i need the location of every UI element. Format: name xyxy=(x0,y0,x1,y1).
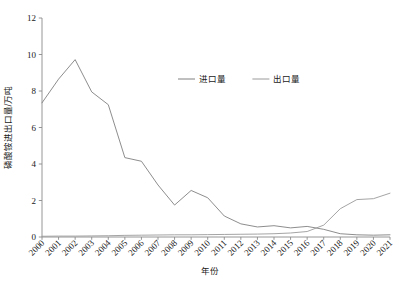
y-axis-tick-label: 12 xyxy=(27,13,36,23)
y-axis: 024681012 xyxy=(27,13,42,242)
legend-label-2[interactable]: 出口量 xyxy=(273,74,300,84)
x-axis-tick-label: 2008 xyxy=(159,237,179,257)
legend-label-1[interactable]: 进口量 xyxy=(199,74,226,84)
x-axis-tick-label: 2000 xyxy=(27,237,47,257)
x-axis-tick-label: 2015 xyxy=(275,237,295,257)
x-axis-tick-label: 2010 xyxy=(192,237,212,257)
x-axis-tick-label: 2006 xyxy=(126,237,146,257)
x-axis-tick-label: 2001 xyxy=(43,238,63,258)
x-axis-tick-label: 2019 xyxy=(341,237,361,257)
x-axis-tick-label: 2007 xyxy=(143,237,163,257)
x-axis: 2000200120022003200420052006200720082009… xyxy=(27,237,395,258)
x-axis-tick-label: 2020 xyxy=(358,237,378,257)
x-axis-tick-label: 2003 xyxy=(76,237,96,257)
x-axis-tick-label: 2021 xyxy=(375,238,395,258)
x-axis-tick-label: 2016 xyxy=(292,237,312,257)
x-axis-tick-label: 2009 xyxy=(176,237,196,257)
x-axis-title: 年份 xyxy=(201,266,219,276)
x-axis-tick-label: 2005 xyxy=(109,237,129,257)
data-series-group xyxy=(42,60,390,237)
y-axis-tick-label: 8 xyxy=(32,86,37,96)
x-axis-tick-label: 2011 xyxy=(209,238,229,258)
chart-legend: 进口量出口量 xyxy=(178,74,300,84)
x-axis-tick-label: 2004 xyxy=(93,237,113,257)
y-axis-tick-label: 4 xyxy=(32,159,37,169)
chart-container: 024681012 200020012002200320042005200620… xyxy=(0,0,399,283)
x-axis-tick-label: 2018 xyxy=(325,237,345,257)
line-chart: 024681012 200020012002200320042005200620… xyxy=(0,0,399,283)
y-axis-tick-label: 10 xyxy=(27,50,37,60)
x-axis-tick-label: 2017 xyxy=(308,237,328,257)
y-axis-tick-label: 6 xyxy=(32,123,37,133)
y-axis-title: 磷酸铵进出口量/万吨 xyxy=(3,86,13,170)
y-axis-tick-label: 2 xyxy=(32,196,37,206)
x-axis-tick-label: 2013 xyxy=(242,237,262,257)
series-line-1 xyxy=(42,60,390,236)
x-axis-tick-label: 2014 xyxy=(259,237,279,257)
x-axis-tick-label: 2002 xyxy=(60,238,80,258)
x-axis-tick-label: 2012 xyxy=(225,238,245,258)
series-line-2 xyxy=(42,193,390,236)
